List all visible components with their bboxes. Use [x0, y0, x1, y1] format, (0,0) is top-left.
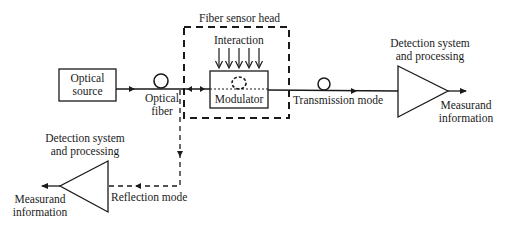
optical-fiber-label: Optical fiber: [142, 92, 182, 118]
fiber-line-transmission: [268, 90, 398, 91]
fiber-sensor-head-label: Fiber sensor head: [199, 12, 280, 25]
arrow-reflection-down-icon: [177, 151, 183, 157]
detection-left-label: Detection system and processing: [30, 132, 140, 158]
detection-right-label: Detection system and processing: [380, 37, 480, 63]
arrow-reflection-left-icon: [135, 183, 141, 189]
optical-source-label: Optical source: [59, 72, 116, 98]
modulator-dashed-loop-icon: [232, 77, 246, 89]
arrow-input-icon: [129, 86, 135, 92]
fiber-loop-icon: [154, 74, 168, 88]
measurand-right-label: Measurand information: [436, 99, 496, 125]
interaction-label: Interaction: [214, 34, 264, 47]
interaction-arrows-icon: [216, 48, 263, 68]
transmission-mode-label: Transmission mode: [293, 94, 383, 107]
measurand-left-label: Measurand information: [10, 193, 70, 219]
bidirectional-arrow-icon: [187, 86, 192, 92]
modulator-label: Modulator: [210, 93, 268, 106]
reflection-mode-label: Reflection mode: [111, 191, 187, 204]
fiber-loop-transmission-icon: [318, 78, 330, 90]
